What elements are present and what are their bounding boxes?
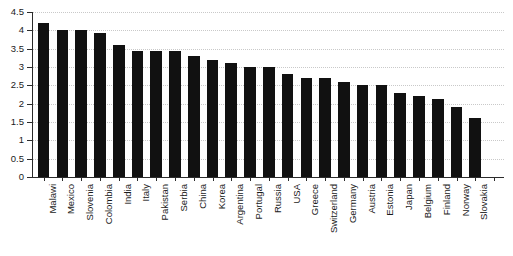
x-axis-tick-label: Austria [367, 184, 377, 214]
bar [188, 56, 200, 177]
x-axis-label: Slovenia [85, 184, 95, 220]
bar [244, 67, 256, 177]
x-axis-tick-label: Mexico [66, 184, 76, 214]
x-axis-label: Korea [217, 184, 227, 209]
x-axis-tick-label: Japan [404, 184, 414, 210]
x-axis-label: Austria [367, 184, 377, 214]
x-axis-label: Argentina [235, 184, 245, 225]
y-axis-tick-label: 1 [0, 136, 24, 146]
bar [282, 74, 294, 177]
x-axis-label: Germany [348, 184, 358, 223]
bar [451, 107, 463, 177]
x-axis-tick-label: Colombia [104, 184, 114, 224]
x-axis-label: Mexico [66, 184, 76, 214]
bar [432, 99, 444, 177]
x-axis-tick-label: Malawi [48, 184, 58, 214]
x-axis-tick-label: Argentina [235, 184, 245, 225]
x-axis-line [32, 177, 504, 178]
bar [150, 51, 162, 178]
y-axis-tick-label: 2.5 [0, 81, 24, 91]
x-axis-tick-label: USA [292, 184, 302, 204]
x-axis-label: Pakistan [160, 184, 170, 220]
x-axis-tick-label: China [198, 184, 208, 209]
x-axis-label: USA [292, 184, 302, 204]
bar-chart: 00.511.522.533.544.5 MalawiMexicoSloveni… [0, 0, 513, 256]
bar [469, 118, 481, 177]
y-axis-tick-label: 4 [0, 26, 24, 36]
x-axis-tick-label: Serbia [179, 184, 189, 211]
x-axis-tick-label: Slovakia [479, 184, 489, 220]
bar [394, 93, 406, 177]
bar [207, 60, 219, 177]
bar [57, 30, 69, 177]
x-axis-tick-label: Switzerland [329, 184, 339, 233]
bar [413, 96, 425, 177]
x-axis-label: Serbia [179, 184, 189, 211]
x-axis-tick-label: Finland [442, 184, 452, 215]
x-axis-tick-label: Slovenia [85, 184, 95, 220]
x-axis-label: Estonia [385, 184, 395, 216]
bar [169, 51, 181, 178]
x-axis-tick-label: Portugal [254, 184, 264, 219]
bar [301, 78, 313, 177]
x-axis-tick-label: India [123, 184, 133, 205]
x-axis-tick-label: Estonia [385, 184, 395, 216]
x-axis-label: Belgium [423, 184, 433, 218]
bar [357, 85, 369, 177]
x-axis-label: Japan [404, 184, 414, 210]
y-axis-tick-label: 0.5 [0, 154, 24, 164]
x-axis-label: Finland [442, 184, 452, 215]
plot-area [32, 12, 504, 177]
x-axis-label: Norway [461, 184, 471, 216]
bar [132, 51, 144, 178]
bar [376, 85, 388, 177]
bar [38, 23, 50, 177]
y-axis-tick-label: 1.5 [0, 117, 24, 127]
y-axis-tick-label: 4.5 [0, 7, 24, 17]
x-axis-label: Russia [273, 184, 283, 213]
x-axis-tick-label: Korea [217, 184, 227, 209]
x-axis-label: China [198, 184, 208, 209]
x-axis-label: Malawi [48, 184, 58, 214]
x-axis-label: Greece [310, 184, 320, 215]
x-axis-label: Slovakia [479, 184, 489, 220]
x-axis-tick-label: Belgium [423, 184, 433, 218]
x-axis-label: Switzerland [329, 184, 339, 233]
bar [75, 30, 87, 177]
x-axis-label: Colombia [104, 184, 114, 224]
bar [338, 82, 350, 177]
x-axis-tick-label: Russia [273, 184, 283, 213]
bar [225, 63, 237, 177]
x-axis-tick-label: Greece [310, 184, 320, 215]
bar [94, 33, 106, 177]
x-axis-tick-label: Pakistan [160, 184, 170, 220]
x-axis-label: Italy [141, 184, 151, 201]
y-axis-tick-label: 3 [0, 62, 24, 72]
y-axis-tick-label: 3.5 [0, 44, 24, 54]
bar [113, 45, 125, 177]
x-axis-tick-label: Italy [141, 184, 151, 201]
x-axis-tick-label: Germany [348, 184, 358, 223]
y-axis-tick-label: 0 [0, 172, 24, 182]
x-axis-label: India [123, 184, 133, 205]
bar [319, 78, 331, 177]
x-axis-tick-label: Norway [461, 184, 471, 216]
y-axis-tick-label: 2 [0, 99, 24, 109]
x-axis-label: Portugal [254, 184, 264, 219]
bar [263, 67, 275, 177]
